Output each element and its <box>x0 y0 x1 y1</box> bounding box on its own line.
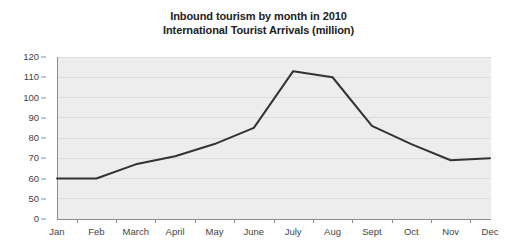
x-tick-label: Feb <box>88 226 104 238</box>
series-line-arrivals <box>57 71 490 178</box>
y-tick-label: 60 <box>28 174 39 184</box>
x-tick-mark <box>392 219 393 223</box>
chart-title-line-1: Inbound tourism by month in 2010 <box>0 9 517 23</box>
y-tick-label: 100 <box>23 93 39 103</box>
x-tick-mark <box>234 219 235 223</box>
y-tick-mark <box>41 77 46 78</box>
x-tick-label: May <box>205 226 223 238</box>
x-tick-mark <box>352 219 353 223</box>
y-tick-mark <box>41 117 46 118</box>
x-axis: JanFebMarchAprilMayJuneJulyAugSeptOctNov… <box>57 226 490 242</box>
y-tick-mark <box>41 97 46 98</box>
x-tick-mark <box>431 219 432 223</box>
x-tick-label: July <box>285 226 302 238</box>
y-tick-label: 110 <box>24 73 39 83</box>
x-tick-label: Oct <box>404 226 419 238</box>
series-line-layer <box>57 57 490 219</box>
y-tick-label: 70 <box>28 154 39 164</box>
chart-title: Inbound tourism by month in 2010 Interna… <box>0 9 517 37</box>
y-tick-mark <box>41 198 46 199</box>
x-tick-mark <box>116 219 117 223</box>
y-tick-mark <box>41 219 46 220</box>
x-tick-label: Aug <box>324 226 341 238</box>
x-tick-label: June <box>244 226 265 238</box>
x-tick-label: Nov <box>442 226 459 238</box>
y-tick-mark <box>41 158 46 159</box>
x-tick-label: March <box>123 226 149 238</box>
x-tick-label: Dec <box>482 226 499 238</box>
x-tick-mark <box>274 219 275 223</box>
x-tick-mark <box>77 219 78 223</box>
x-tick-mark <box>155 219 156 223</box>
x-tick-mark <box>470 219 471 223</box>
y-tick-label: 0 <box>34 214 39 224</box>
chart-title-line-2: International Tourist Arrivals (million) <box>0 23 517 37</box>
y-tick-mark <box>41 138 46 139</box>
x-axis-ticks <box>57 219 490 224</box>
x-tick-label: April <box>166 226 185 238</box>
y-tick-label: 50 <box>28 194 39 204</box>
line-chart-figure: Inbound tourism by month in 2010 Interna… <box>0 0 517 252</box>
y-tick-mark <box>41 57 46 58</box>
x-tick-mark <box>313 219 314 223</box>
y-tick-mark <box>41 178 46 179</box>
x-tick-label: Sept <box>362 226 382 238</box>
x-tick-label: Jan <box>49 226 64 238</box>
x-tick-mark <box>195 219 196 223</box>
y-tick-label: 90 <box>28 113 39 123</box>
y-axis: 05060708090100110120 <box>0 57 50 219</box>
y-tick-label: 80 <box>28 133 39 143</box>
y-tick-label: 120 <box>23 52 39 62</box>
